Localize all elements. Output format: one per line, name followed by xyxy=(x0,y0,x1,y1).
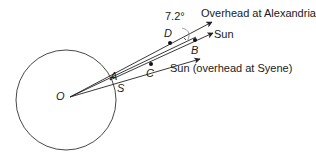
ray-overhead-alexandria xyxy=(70,22,212,97)
label-a: A xyxy=(109,70,117,82)
label-c: C xyxy=(146,67,154,79)
angle-pointer xyxy=(184,38,186,40)
angle-label: 7.2° xyxy=(165,10,185,22)
label-overhead-alexandria: Overhead at Alexandria xyxy=(201,7,316,19)
label-d: D xyxy=(164,27,172,39)
point-d xyxy=(168,41,172,45)
eratosthenes-diagram: O A S C D B 7.2° Overhead at Alexandria … xyxy=(0,0,316,152)
point-c xyxy=(149,62,153,66)
earth-circle xyxy=(16,50,116,150)
label-b: B xyxy=(191,44,198,56)
label-sun-syene: Sun (overhead at Syene) xyxy=(170,62,292,74)
point-b xyxy=(193,38,197,42)
angle-arc xyxy=(182,28,189,40)
label-s: S xyxy=(117,82,125,94)
label-o: O xyxy=(56,90,65,102)
label-sun: Sun xyxy=(214,28,234,40)
